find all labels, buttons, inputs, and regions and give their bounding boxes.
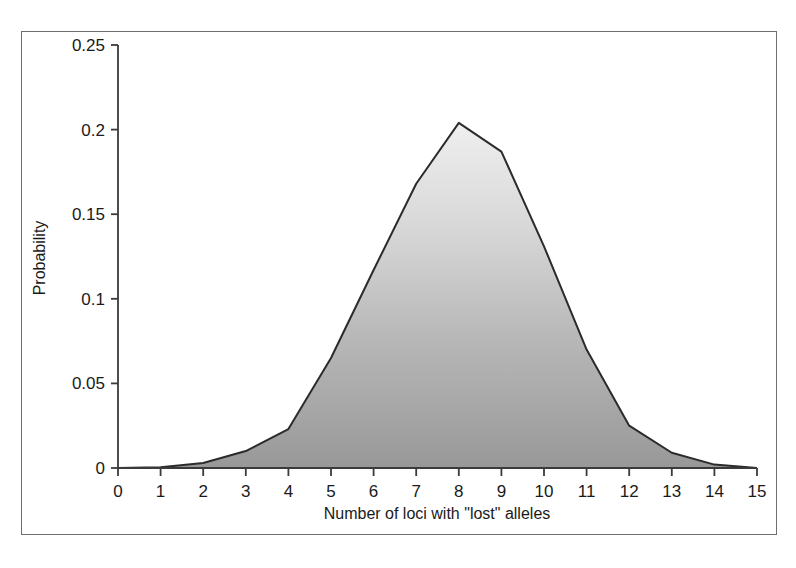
y-axis-tick-label: 0.15 (72, 205, 105, 224)
x-axis-tick-label: 14 (705, 482, 724, 501)
x-axis-tick-label: 8 (454, 482, 463, 501)
x-axis-tick-label: 15 (748, 482, 767, 501)
x-axis-tick-label: 5 (326, 482, 335, 501)
x-axis-tick-label: 4 (284, 482, 293, 501)
x-axis-tick-label: 11 (578, 482, 596, 501)
y-axis-tick-labels: 00.050.10.150.20.25 (72, 36, 105, 478)
y-axis-tick-label: 0.1 (81, 290, 105, 309)
x-axis-tick-labels: 0123456789101112131415 (113, 482, 766, 501)
x-axis-tick-label: 1 (156, 482, 165, 501)
y-axis-tick-label: 0.05 (72, 374, 105, 393)
y-axis-tick-label: 0.2 (81, 121, 105, 140)
x-axis-tick-label: 2 (198, 482, 207, 501)
x-axis-tick-label: 3 (241, 482, 250, 501)
x-axis-tick-label: 12 (620, 482, 639, 501)
distribution-area-fill (118, 123, 757, 468)
x-axis-tick-label: 10 (535, 482, 554, 501)
x-axis-tick-label: 13 (662, 482, 681, 501)
figure-container: 00.050.10.150.20.25 01234567891011121314… (0, 0, 796, 568)
probability-distribution-chart: 00.050.10.150.20.25 01234567891011121314… (0, 0, 796, 568)
y-axis-tick-label: 0 (96, 459, 105, 478)
x-axis-tick-label: 0 (113, 482, 122, 501)
y-axis-tick-label: 0.25 (72, 36, 105, 55)
x-axis-title: Number of loci with "lost" alleles (324, 505, 551, 522)
x-axis-ticks (118, 468, 757, 476)
x-axis-tick-label: 9 (497, 482, 506, 501)
x-axis-tick-label: 6 (369, 482, 378, 501)
y-axis-title: Probability (31, 221, 48, 296)
y-axis-ticks (111, 45, 118, 468)
x-axis-tick-label: 7 (411, 482, 420, 501)
